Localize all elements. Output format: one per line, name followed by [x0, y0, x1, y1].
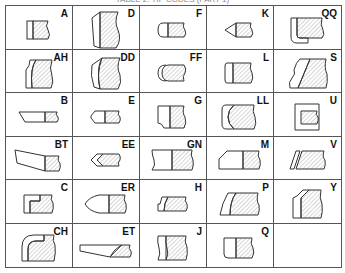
- stepped-corner-tip-icon: [156, 103, 190, 131]
- tip-cell-g: G: [140, 93, 207, 137]
- tip-code-label: H: [195, 182, 202, 193]
- tip-code-label: L: [263, 52, 269, 63]
- tip-code-label: A: [61, 8, 68, 19]
- tip-code-label: ET: [122, 226, 135, 237]
- angled-corner-tip-icon: [217, 148, 263, 172]
- double-chevron-tip-icon: [89, 152, 123, 168]
- tip-code-label: J: [196, 226, 202, 237]
- chamfer-point-tip-icon: [89, 109, 123, 125]
- tip-code-label: K: [262, 8, 269, 19]
- tip-cell-f: F: [140, 6, 207, 50]
- deep-concave-tip-icon: [220, 102, 260, 132]
- tip-cell-u: U: [274, 93, 341, 137]
- parallel-slant-tip-icon: [288, 149, 328, 171]
- tip-cell-d: D: [73, 6, 140, 50]
- tip-cell-a: A: [6, 6, 73, 50]
- long-slant-tip-icon: [78, 237, 134, 259]
- tip-cell-y: Y: [274, 180, 341, 224]
- tip-cell-er: ER: [73, 180, 140, 224]
- concave-ends-tip-icon: [156, 234, 190, 262]
- tip-code-label: V: [330, 139, 337, 150]
- tip-code-label: ER: [121, 182, 135, 193]
- tip-cell-ff: FF: [140, 50, 207, 94]
- tip-code-label: Q: [261, 226, 269, 237]
- tip-cell-p: P: [207, 180, 274, 224]
- tip-cell-dd: DD: [73, 50, 140, 94]
- offset-slant-tip-icon: [291, 188, 325, 220]
- tip-cell-c: C: [6, 180, 73, 224]
- tip-code-label: EE: [122, 139, 135, 150]
- tip-code-label: F: [196, 8, 202, 19]
- long-bevel-tip-icon: [17, 109, 61, 125]
- tip-code-label: E: [128, 95, 135, 106]
- double-round-tip-icon: [156, 62, 190, 84]
- tip-cell-q: Q: [207, 224, 274, 268]
- tip-cell-gn: GN: [140, 137, 207, 181]
- notched-slant-tip-icon: [156, 195, 190, 213]
- notched-ends-tip-icon: [150, 147, 196, 173]
- tip-code-label: FF: [190, 52, 202, 63]
- curved-point-tip-icon: [83, 193, 129, 215]
- tip-cell-qq: QQ: [274, 6, 341, 50]
- tip-cell-l: L: [207, 50, 274, 94]
- tip-cell-ee: EE: [73, 137, 140, 181]
- hook-tip-icon: [288, 15, 328, 45]
- round-corner-tip-icon: [223, 60, 257, 86]
- tip-code-label: D: [128, 8, 135, 19]
- double-concave-tip-icon: [88, 55, 124, 91]
- curved-slant-tip-icon: [218, 191, 262, 217]
- rounded-corner-square-tip-icon: [222, 236, 258, 260]
- long-taper-tip-icon: [13, 147, 65, 173]
- tip-cell-h: H: [140, 180, 207, 224]
- tip-cell-ch: CH: [6, 224, 73, 268]
- tip-code-label: S: [330, 52, 337, 63]
- tip-cell-ll: LL: [207, 93, 274, 137]
- inset-square-tip-icon: [293, 102, 323, 132]
- tip-cell-empty: [274, 224, 341, 268]
- table-caption: TABLE 2: TIP CODES (PART 1): [0, 0, 345, 4]
- tip-cell-b: B: [6, 93, 73, 137]
- tip-cell-k: K: [207, 6, 274, 50]
- tip-cell-ah: AH: [6, 50, 73, 94]
- square-tip-icon: [24, 17, 54, 43]
- tip-code-label: G: [194, 95, 202, 106]
- tip-code-label: Y: [330, 182, 337, 193]
- rounded-hook-tip-icon: [20, 233, 58, 263]
- concave-bevel-tip-icon: [22, 56, 56, 90]
- tip-cell-s: S: [274, 50, 341, 94]
- tip-code-label: P: [262, 182, 269, 193]
- round-nose-tip-icon: [156, 20, 190, 40]
- tip-code-grid: A D F K QQ: [5, 5, 342, 268]
- tip-cell-e: E: [73, 93, 140, 137]
- tip-cell-m: M: [207, 137, 274, 181]
- tip-cell-bt: BT: [6, 137, 73, 181]
- tip-code-label: B: [61, 95, 68, 106]
- stepped-offset-tip-icon: [22, 193, 56, 215]
- wide-bevel-tip-icon: [88, 10, 124, 50]
- tip-code-label: C: [61, 182, 68, 193]
- tip-code-label: U: [330, 95, 337, 106]
- ogee-slant-tip-icon: [286, 56, 330, 90]
- tip-cell-et: ET: [73, 224, 140, 268]
- tip-cell-v: V: [274, 137, 341, 181]
- pointed-tip-icon: [223, 20, 257, 40]
- tip-cell-j: J: [140, 224, 207, 268]
